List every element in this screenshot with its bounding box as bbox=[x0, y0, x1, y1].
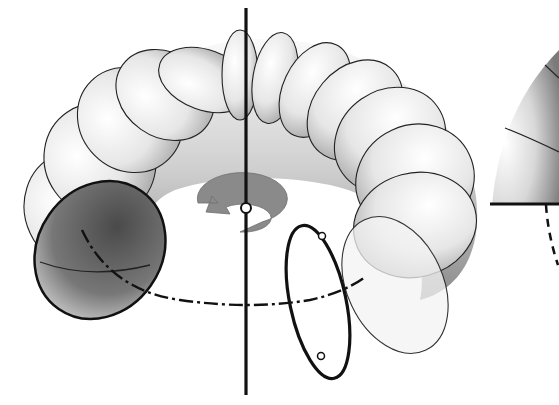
axis-point bbox=[241, 203, 251, 213]
circle-point-bottom bbox=[318, 353, 325, 360]
rotation-arrow-icon bbox=[197, 173, 287, 232]
partial-sphere bbox=[490, 50, 559, 265]
circle-point-top bbox=[319, 233, 326, 240]
torus-diagram bbox=[0, 0, 559, 405]
